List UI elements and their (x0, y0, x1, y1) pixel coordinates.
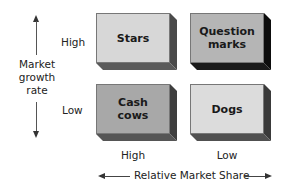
x-axis-line-right (244, 176, 266, 177)
box-bottom (96, 63, 177, 70)
quadrant-stars: Stars (96, 13, 170, 63)
col-label-high: High (96, 149, 170, 161)
x-axis-line-left (104, 176, 130, 177)
quadrant-label-dogs: Dogs (211, 103, 242, 116)
quadrant-label-cows: cows (118, 109, 149, 122)
box-face: Cash cows (96, 84, 170, 134)
y-axis-line-lower (36, 102, 37, 132)
box-face: Stars (96, 13, 170, 63)
x-axis-label: Relative Market Share (134, 169, 240, 181)
quadrant-cash-cows: Cash cows (96, 84, 170, 134)
quadrant-label-cash: Cash (118, 96, 148, 109)
col-label-low: Low (190, 149, 264, 161)
box-bottom (190, 63, 271, 70)
y-axis-label-line-2: growth (10, 71, 64, 84)
y-axis-label-line-3: rate (10, 84, 64, 97)
arrow-right-icon (265, 173, 272, 179)
arrow-down-icon (33, 131, 39, 138)
box-side (264, 84, 271, 141)
box-face: Question marks (190, 13, 264, 63)
row-label-high: High (61, 36, 85, 48)
quadrant-label-question: Question (199, 25, 255, 38)
quadrant-question-marks: Question marks (190, 13, 264, 63)
y-axis-line-upper (36, 21, 37, 55)
row-label-low: Low (62, 104, 83, 116)
y-axis-label: Market growth rate (10, 58, 64, 97)
x-axis: Relative Market Share (98, 170, 273, 184)
box-side (170, 13, 177, 70)
quadrant-label-marks: marks (208, 38, 246, 51)
quadrant-dogs: Dogs (190, 84, 264, 134)
quadrant-label-stars: Stars (117, 32, 150, 45)
box-bottom (96, 134, 177, 141)
y-axis-label-line-1: Market (10, 58, 64, 71)
box-side (264, 13, 271, 70)
box-bottom (190, 134, 271, 141)
box-side (170, 84, 177, 141)
box-face: Dogs (190, 84, 264, 134)
